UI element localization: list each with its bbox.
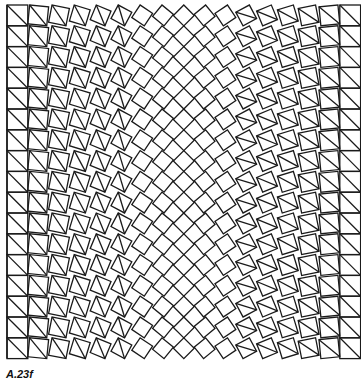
tile [236,109,257,130]
tile [90,151,111,172]
tile [7,192,28,213]
tile [69,255,90,276]
tile [173,47,194,68]
tile [173,255,194,276]
tile [28,151,49,172]
tile [153,255,174,276]
tile [277,47,298,68]
tile [28,317,49,338]
tile [215,213,236,234]
tile [173,151,194,172]
tile [132,5,153,26]
tile [49,5,70,26]
tile [319,109,340,130]
tile [173,234,194,255]
tile [49,192,70,213]
tile [215,192,236,213]
tile [340,26,361,47]
tile [28,130,49,151]
tile [277,67,298,88]
tile [173,88,194,109]
tile [90,67,111,88]
tile [236,234,257,255]
tile [49,234,70,255]
tile [132,26,153,47]
tile [132,47,153,68]
tile [340,255,361,276]
tile [257,67,278,88]
tile [90,317,111,338]
tile [215,296,236,317]
tile [236,67,257,88]
tile [173,171,194,192]
tile [49,26,70,47]
tile [28,338,49,359]
tile [90,47,111,68]
tile [215,151,236,172]
tile [153,109,174,130]
tile [298,171,319,192]
tile [298,88,319,109]
tile [319,255,340,276]
tile [215,47,236,68]
tile [153,192,174,213]
tile [340,67,361,88]
tile [7,234,28,255]
tile [236,26,257,47]
tile [257,317,278,338]
tile [319,171,340,192]
tile [69,67,90,88]
tile [69,109,90,130]
tile [49,296,70,317]
tile [298,109,319,130]
tile [153,317,174,338]
tile [49,47,70,68]
tile [153,26,174,47]
tile [257,26,278,47]
tile [28,5,49,26]
tile [319,151,340,172]
tile [277,171,298,192]
tile [257,213,278,234]
tile [340,213,361,234]
tile [319,213,340,234]
tile [236,151,257,172]
tile [236,130,257,151]
tile [132,255,153,276]
tile [69,192,90,213]
tile [257,255,278,276]
tile [194,151,215,172]
tile [173,338,194,359]
tile [69,88,90,109]
tile [298,213,319,234]
tile [111,171,132,192]
tile [153,338,174,359]
tile [340,296,361,317]
tile [69,213,90,234]
tile [340,317,361,338]
tile [340,192,361,213]
tile [173,5,194,26]
tile [28,213,49,234]
tile [257,151,278,172]
tile [132,151,153,172]
tile [277,151,298,172]
tile [28,109,49,130]
tile [340,5,361,26]
tile [90,26,111,47]
tile [173,192,194,213]
tile [90,130,111,151]
tile [194,234,215,255]
tile [257,5,278,26]
tile [298,317,319,338]
tile [132,171,153,192]
tile [7,275,28,296]
tile [132,338,153,359]
tile [111,5,132,26]
tile [28,171,49,192]
tile [90,171,111,192]
tile [277,5,298,26]
tile [90,109,111,130]
tile [111,192,132,213]
tile [90,234,111,255]
